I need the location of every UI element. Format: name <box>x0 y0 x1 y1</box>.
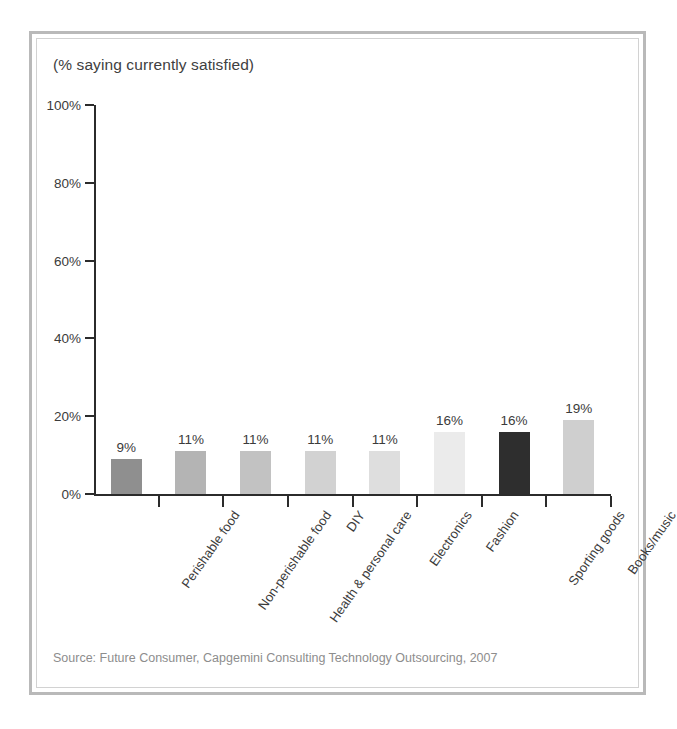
x-axis-category-labels: Perishable foodNon-perishable foodHealth… <box>94 508 634 648</box>
x-axis-tick <box>287 496 289 507</box>
y-axis-tick <box>85 260 94 262</box>
bar: 16% <box>499 432 530 494</box>
plot-area: 100%80%60%40%20%0% 9%11%11%11%11%16%16%1… <box>94 105 611 494</box>
bar: 11% <box>305 451 336 494</box>
x-axis-category-label: DIY <box>343 508 368 534</box>
x-axis-category-label: Fashion <box>483 508 522 554</box>
x-axis-category-label: Sporting goods <box>565 508 627 588</box>
figure-frame: (% saying currently satisfied) 100%80%60… <box>29 31 646 695</box>
bar: 9% <box>111 459 142 494</box>
x-axis-category-label: Electronics <box>426 508 475 569</box>
bar-value-label: 19% <box>565 401 592 416</box>
y-axis-tick <box>85 337 94 339</box>
bar-value-label: 16% <box>436 413 463 428</box>
x-axis-category-label: Non-perishable food <box>255 508 334 613</box>
bar: 16% <box>434 432 465 494</box>
x-axis-tick <box>352 496 354 507</box>
x-axis-tick <box>158 496 160 507</box>
x-axis-tick <box>610 496 612 507</box>
bar: 11% <box>369 451 400 494</box>
x-axis-category-label: Health & personal care <box>326 508 414 625</box>
bar-value-label: 11% <box>243 432 269 447</box>
y-axis-tick <box>85 493 94 495</box>
x-axis-tick <box>222 496 224 507</box>
bar-value-label: 11% <box>178 432 204 447</box>
x-axis-category-label: Books/music <box>624 508 677 577</box>
y-axis-tick-label: 60% <box>54 253 81 268</box>
x-axis-tick <box>416 496 418 507</box>
chart-title: (% saying currently satisfied) <box>53 56 254 74</box>
y-axis-tick-label: 20% <box>54 409 81 424</box>
bar: 11% <box>175 451 206 494</box>
y-axis-tick <box>85 415 94 417</box>
bar-value-label: 9% <box>117 440 137 455</box>
y-axis-tick <box>85 182 94 184</box>
figure-inner-border: (% saying currently satisfied) 100%80%60… <box>36 38 639 688</box>
bar-value-label: 11% <box>372 432 398 447</box>
y-axis-tick-label: 40% <box>54 331 81 346</box>
bar: 19% <box>563 420 594 494</box>
y-axis-tick-label: 0% <box>61 487 81 502</box>
source-note: Source: Future Consumer, Capgemini Consu… <box>53 651 497 665</box>
bar-value-label: 16% <box>501 413 528 428</box>
y-axis-tick <box>85 104 94 106</box>
x-axis-tick <box>545 496 547 507</box>
y-axis-tick-label: 80% <box>54 175 81 190</box>
bar-series: 9%11%11%11%11%16%16%19% <box>94 105 611 494</box>
bar-value-label: 11% <box>307 432 333 447</box>
x-axis-category-label: Perishable food <box>179 508 243 591</box>
y-axis-tick-label: 100% <box>46 98 81 113</box>
bar: 11% <box>240 451 271 494</box>
x-axis-tick <box>481 496 483 507</box>
